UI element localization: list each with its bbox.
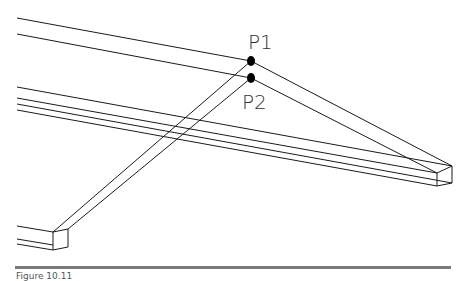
lower-left-beam (17, 226, 53, 250)
node-p1-marker (247, 56, 255, 66)
upper-beam (17, 18, 251, 78)
node-p2-marker (247, 73, 255, 83)
lower-beam (17, 87, 452, 186)
figure-caption: Figure 10.11 (16, 271, 72, 281)
label-p2: P2 (242, 90, 267, 114)
lower-left-end-box (53, 229, 68, 250)
caption-rule (15, 266, 451, 269)
right-rafter (251, 61, 452, 173)
right-end-box (437, 166, 452, 186)
label-p1: P1 (248, 30, 273, 54)
